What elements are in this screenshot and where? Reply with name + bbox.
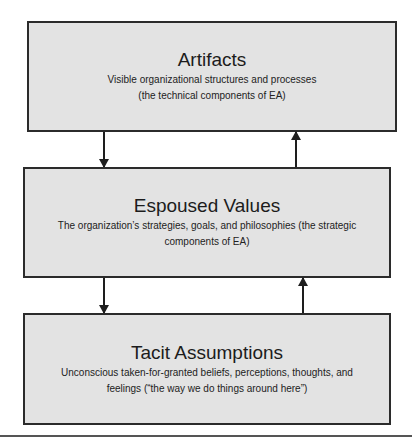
espoused-values-description-line-2: components of EA) (164, 234, 249, 250)
footer-divider (0, 435, 412, 437)
arrow-down-icon (103, 278, 105, 313)
tacit-assumptions-description-line-1: Unconscious taken-for-granted beliefs, p… (61, 365, 353, 381)
artifacts-title: Artifacts (178, 49, 247, 71)
arrow-down-icon (103, 132, 105, 167)
espoused-values-title: Espoused Values (134, 195, 280, 217)
artifacts-description-line-1: Visible organizational structures and pr… (108, 72, 317, 88)
arrow-up-icon (302, 278, 304, 313)
artifacts-description-line-2: (the technical components of EA) (138, 88, 285, 104)
espoused-values-layer-box: Espoused Values The organization’s strat… (23, 167, 391, 278)
espoused-values-description-line-1: The organization’s strategies, goals, an… (58, 218, 356, 234)
arrow-up-icon (295, 132, 297, 167)
tacit-assumptions-description-line-2: feelings (“the way we do things around h… (107, 381, 308, 397)
artifacts-layer-box: Artifacts Visible organizational structu… (27, 21, 397, 132)
tacit-assumptions-title: Tacit Assumptions (131, 342, 283, 364)
tacit-assumptions-layer-box: Tacit Assumptions Unconscious taken-for-… (23, 313, 391, 425)
